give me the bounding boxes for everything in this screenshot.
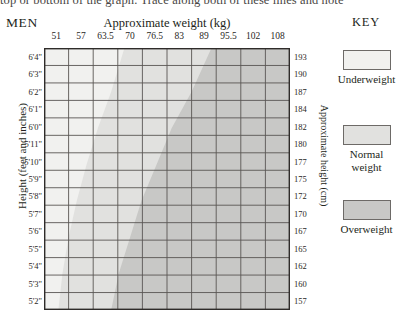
height-tick-feet-14: 5'2" <box>28 296 42 306</box>
height-tick-cm-12: 162 <box>294 261 307 271</box>
key-label-line1-1: Normal <box>350 148 384 160</box>
height-tick-feet-4: 6'0" <box>28 122 42 132</box>
key-title: KEY <box>352 15 380 30</box>
height-tick-feet-3: 6'1" <box>28 104 42 114</box>
key-label-line2-1: weight <box>330 161 403 174</box>
height-axis-title-left: Height (feet and inches) <box>16 86 28 226</box>
weight-tick-labels: 515763.57076.5838995.5102108 <box>44 31 290 44</box>
key-swatch-1 <box>343 125 391 145</box>
key-swatch-0 <box>343 50 391 70</box>
weight-tick-70: 70 <box>125 31 135 41</box>
height-tick-feet-10: 5'6" <box>28 226 42 236</box>
height-tick-cm-6: 177 <box>294 157 307 167</box>
weight-tick-51: 51 <box>52 31 62 41</box>
weight-tick-57: 57 <box>76 31 86 41</box>
height-tick-feet-13: 5'3" <box>28 279 42 289</box>
height-tick-cm-13: 160 <box>294 279 307 289</box>
weight-tick-63.5: 63.5 <box>97 31 114 41</box>
height-tick-feet-0: 6'4" <box>28 52 42 62</box>
height-tick-cm-9: 170 <box>294 209 307 219</box>
key-label-1: Normalweight <box>330 148 403 174</box>
height-tick-cm-2: 187 <box>294 87 307 97</box>
bmi-plot-area <box>44 48 290 310</box>
height-tick-feet-12: 5'4" <box>28 261 42 271</box>
key-label-line1-0: Underweight <box>338 73 395 85</box>
height-tick-cm-11: 165 <box>294 244 307 254</box>
height-axis-title-right: Approximate height (cm) <box>319 86 330 226</box>
weight-axis-title: Approximate weight (kg) <box>44 16 290 31</box>
key-item-normal: Normalweight <box>330 125 403 174</box>
cut-off-paragraph-text: top or bottom of the graph. Trace along … <box>0 0 380 8</box>
key-swatch-2 <box>343 200 391 220</box>
key-legend: UnderweightNormalweightOverweight <box>330 40 403 260</box>
height-tick-cm-3: 184 <box>294 104 307 114</box>
height-tick-feet-1: 6'3" <box>28 69 42 79</box>
height-tick-cm-0: 193 <box>294 52 307 62</box>
height-tick-cm-7: 175 <box>294 174 307 184</box>
height-tick-feet-9: 5'7" <box>28 209 42 219</box>
key-label-line1-2: Overweight <box>341 223 393 235</box>
weight-tick-108: 108 <box>271 31 285 41</box>
height-tick-cm-8: 172 <box>294 191 307 201</box>
weight-tick-89: 89 <box>199 31 209 41</box>
weight-tick-83: 83 <box>175 31 185 41</box>
height-tick-cm-4: 182 <box>294 122 307 132</box>
height-tick-feet-11: 5'5" <box>28 244 42 254</box>
key-item-underweight: Underweight <box>330 50 403 86</box>
bmi-chart-page: top or bottom of the graph. Trace along … <box>0 0 403 314</box>
bmi-plot-svg <box>44 48 290 310</box>
height-tick-cm-1: 190 <box>294 69 307 79</box>
weight-tick-102: 102 <box>246 31 260 41</box>
weight-tick-95.5: 95.5 <box>220 31 237 41</box>
height-tick-labels-cm: 1931901871841821801771751721701671651621… <box>294 48 318 310</box>
height-tick-feet-2: 6'2" <box>28 87 42 97</box>
height-tick-cm-10: 167 <box>294 226 307 236</box>
key-label-2: Overweight <box>330 223 403 236</box>
weight-tick-76.5: 76.5 <box>146 31 163 41</box>
height-tick-cm-14: 157 <box>294 296 307 306</box>
height-tick-feet-7: 5'9" <box>28 174 42 184</box>
height-tick-cm-5: 180 <box>294 139 307 149</box>
height-tick-feet-8: 5'8" <box>28 191 42 201</box>
key-label-0: Underweight <box>330 73 403 86</box>
gender-label: MEN <box>6 15 38 31</box>
key-item-overweight: Overweight <box>330 200 403 236</box>
